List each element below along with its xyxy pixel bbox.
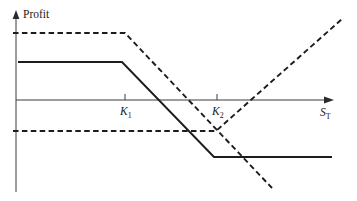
x-axis-title: ST bbox=[320, 106, 331, 121]
x-tick-label-k2: K2 bbox=[211, 105, 224, 120]
series-solid-payoff bbox=[18, 62, 332, 157]
series-dashed-upper-payoff bbox=[13, 33, 272, 188]
k2-sub: 2 bbox=[220, 111, 224, 120]
x-axis-title-sub: T bbox=[326, 112, 331, 121]
x-axis-arrowhead bbox=[324, 97, 334, 104]
series-dashed-lower-payoff bbox=[13, 19, 342, 131]
profit-chart-svg: Profit K1 K2 ST bbox=[0, 0, 357, 201]
profit-diagram-figure: Profit K1 K2 ST bbox=[0, 0, 357, 201]
x-tick-label-k1: K1 bbox=[119, 105, 132, 120]
y-axis-arrowhead bbox=[13, 10, 20, 19]
k1-sub: 1 bbox=[128, 111, 132, 120]
y-axis-title: Profit bbox=[23, 8, 50, 20]
